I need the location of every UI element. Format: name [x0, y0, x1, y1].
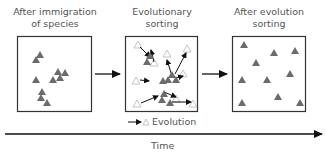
panel-2-evolved-species — [132, 41, 197, 107]
time-axis-label: Time — [151, 140, 174, 151]
panel-1-box — [18, 37, 92, 112]
legend-evolution-symbol — [128, 119, 149, 125]
panel-1-species — [32, 51, 69, 106]
diagram-canvas — [0, 0, 326, 153]
panel-3-species — [238, 41, 304, 106]
legend-evolution-label: Evolution — [152, 116, 196, 127]
